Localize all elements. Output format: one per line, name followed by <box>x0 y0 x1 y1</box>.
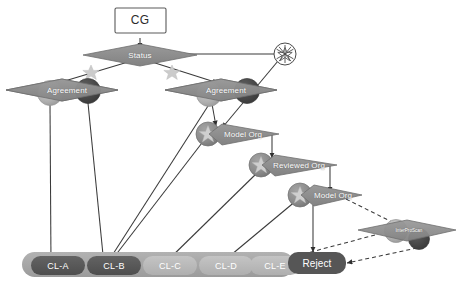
edge-agrL-dark-clb <box>88 103 104 265</box>
starburst-circle-icon[interactable] <box>274 43 296 65</box>
leaf-cl-c-shape[interactable] <box>143 256 197 275</box>
leaf-cl-b-shape[interactable] <box>87 256 141 275</box>
node-reject-shape[interactable] <box>288 252 346 274</box>
star-right-icon <box>164 65 180 79</box>
leaf-cl-d-shape[interactable] <box>199 256 253 275</box>
node-cg[interactable] <box>115 8 166 33</box>
star-left-icon <box>83 65 99 79</box>
leaf-cl-a-shape[interactable] <box>31 256 85 275</box>
edge-agrR-light-clb <box>106 106 208 265</box>
node-agreement-left-face[interactable] <box>6 79 118 101</box>
edge-agrL-light-cla <box>50 104 51 265</box>
node-reviewed-org[interactable] <box>262 155 337 176</box>
edge-modelorg-star-clb <box>108 139 205 265</box>
node-status[interactable] <box>83 44 197 66</box>
edge-status-agreement-right <box>152 62 218 83</box>
edge-scandark-reject <box>347 248 417 263</box>
edge-reviewedorg-star-clc <box>163 172 258 265</box>
diagram-svg <box>0 0 458 291</box>
node-interproscan[interactable] <box>358 220 456 241</box>
diagram-canvas: CG Status Agreement Agreement Model Org … <box>0 0 458 291</box>
node-model-org-1[interactable] <box>209 124 279 145</box>
